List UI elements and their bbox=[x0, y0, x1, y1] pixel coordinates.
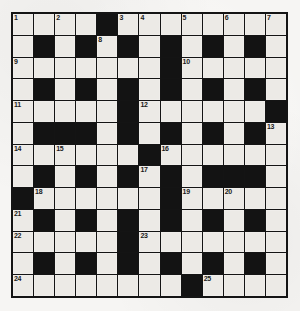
open-square[interactable] bbox=[34, 14, 54, 35]
open-square[interactable]: 22 bbox=[13, 232, 33, 253]
open-square[interactable] bbox=[34, 275, 54, 296]
open-square[interactable] bbox=[224, 123, 244, 144]
open-square[interactable] bbox=[139, 123, 159, 144]
open-square[interactable] bbox=[97, 210, 117, 231]
open-square[interactable] bbox=[55, 36, 75, 57]
open-square[interactable] bbox=[224, 253, 244, 274]
open-square[interactable] bbox=[182, 145, 202, 166]
open-square[interactable] bbox=[224, 145, 244, 166]
open-square[interactable]: 10 bbox=[182, 58, 202, 79]
open-square[interactable] bbox=[97, 145, 117, 166]
open-square[interactable] bbox=[139, 58, 159, 79]
open-square[interactable] bbox=[266, 79, 286, 100]
crossword-grid[interactable]: 1234567891011121314151617181920212223242… bbox=[13, 14, 286, 296]
open-square[interactable] bbox=[139, 275, 159, 296]
open-square[interactable]: 9 bbox=[13, 58, 33, 79]
open-square[interactable]: 24 bbox=[13, 275, 33, 296]
open-square[interactable] bbox=[76, 101, 96, 122]
open-square[interactable] bbox=[182, 123, 202, 144]
open-square[interactable] bbox=[182, 36, 202, 57]
open-square[interactable] bbox=[13, 36, 33, 57]
open-square[interactable] bbox=[13, 166, 33, 187]
open-square[interactable]: 18 bbox=[34, 188, 54, 209]
open-square[interactable] bbox=[118, 188, 138, 209]
open-square[interactable]: 3 bbox=[118, 14, 138, 35]
open-square[interactable] bbox=[55, 188, 75, 209]
open-square[interactable]: 19 bbox=[182, 188, 202, 209]
open-square[interactable] bbox=[13, 79, 33, 100]
open-square[interactable] bbox=[55, 210, 75, 231]
open-square[interactable] bbox=[55, 232, 75, 253]
open-square[interactable] bbox=[203, 188, 223, 209]
open-square[interactable] bbox=[55, 166, 75, 187]
open-square[interactable] bbox=[118, 58, 138, 79]
open-square[interactable] bbox=[13, 253, 33, 274]
open-square[interactable]: 17 bbox=[139, 166, 159, 187]
open-square[interactable] bbox=[224, 36, 244, 57]
open-square[interactable] bbox=[97, 232, 117, 253]
open-square[interactable] bbox=[55, 253, 75, 274]
open-square[interactable]: 13 bbox=[266, 123, 286, 144]
open-square[interactable] bbox=[34, 145, 54, 166]
open-square[interactable]: 20 bbox=[224, 188, 244, 209]
open-square[interactable] bbox=[139, 36, 159, 57]
open-square[interactable]: 8 bbox=[97, 36, 117, 57]
open-square[interactable] bbox=[97, 188, 117, 209]
open-square[interactable] bbox=[161, 232, 181, 253]
open-square[interactable]: 15 bbox=[55, 145, 75, 166]
open-square[interactable] bbox=[245, 58, 265, 79]
open-square[interactable] bbox=[97, 166, 117, 187]
open-square[interactable] bbox=[266, 253, 286, 274]
open-square[interactable] bbox=[34, 232, 54, 253]
open-square[interactable] bbox=[224, 232, 244, 253]
open-square[interactable] bbox=[182, 166, 202, 187]
open-square[interactable] bbox=[224, 101, 244, 122]
open-square[interactable]: 16 bbox=[161, 145, 181, 166]
open-square[interactable] bbox=[266, 145, 286, 166]
open-square[interactable]: 21 bbox=[13, 210, 33, 231]
open-square[interactable] bbox=[118, 145, 138, 166]
open-square[interactable] bbox=[97, 253, 117, 274]
open-square[interactable] bbox=[266, 58, 286, 79]
open-square[interactable] bbox=[203, 232, 223, 253]
open-square[interactable] bbox=[76, 188, 96, 209]
open-square[interactable] bbox=[139, 188, 159, 209]
open-square[interactable] bbox=[76, 145, 96, 166]
open-square[interactable] bbox=[203, 101, 223, 122]
open-square[interactable] bbox=[76, 14, 96, 35]
open-square[interactable] bbox=[266, 36, 286, 57]
open-square[interactable] bbox=[34, 58, 54, 79]
open-square[interactable] bbox=[182, 232, 202, 253]
open-square[interactable] bbox=[55, 79, 75, 100]
open-square[interactable]: 7 bbox=[266, 14, 286, 35]
open-square[interactable] bbox=[55, 275, 75, 296]
open-square[interactable]: 25 bbox=[203, 275, 223, 296]
open-square[interactable] bbox=[182, 210, 202, 231]
open-square[interactable] bbox=[55, 101, 75, 122]
open-square[interactable] bbox=[76, 275, 96, 296]
open-square[interactable] bbox=[266, 275, 286, 296]
open-square[interactable] bbox=[266, 210, 286, 231]
open-square[interactable] bbox=[266, 188, 286, 209]
open-square[interactable]: 1 bbox=[13, 14, 33, 35]
open-square[interactable] bbox=[118, 275, 138, 296]
open-square[interactable] bbox=[245, 188, 265, 209]
open-square[interactable] bbox=[245, 101, 265, 122]
open-square[interactable]: 12 bbox=[139, 101, 159, 122]
open-square[interactable] bbox=[76, 58, 96, 79]
open-square[interactable] bbox=[97, 79, 117, 100]
open-square[interactable]: 23 bbox=[139, 232, 159, 253]
open-square[interactable] bbox=[97, 275, 117, 296]
open-square[interactable] bbox=[266, 232, 286, 253]
open-square[interactable] bbox=[266, 166, 286, 187]
open-square[interactable] bbox=[97, 123, 117, 144]
open-square[interactable] bbox=[76, 232, 96, 253]
open-square[interactable] bbox=[224, 79, 244, 100]
open-square[interactable]: 6 bbox=[224, 14, 244, 35]
open-square[interactable] bbox=[182, 79, 202, 100]
open-square[interactable] bbox=[97, 101, 117, 122]
open-square[interactable] bbox=[182, 253, 202, 274]
open-square[interactable] bbox=[245, 14, 265, 35]
open-square[interactable] bbox=[224, 58, 244, 79]
open-square[interactable] bbox=[161, 275, 181, 296]
